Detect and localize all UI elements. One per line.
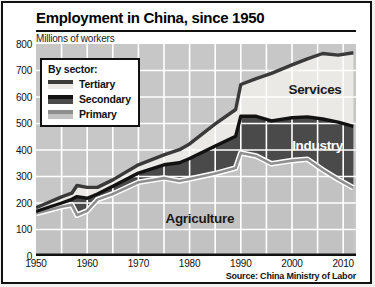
legend-box: By sector: TertiarySecondaryPrimary	[40, 58, 140, 127]
y-tick-label: 800	[3, 39, 32, 50]
x-tick-label: 1970	[122, 258, 154, 269]
legend-title: By sector:	[48, 63, 131, 75]
swatch-fill	[48, 99, 73, 104]
area-label-industry: Industry	[292, 138, 344, 153]
y-tick-label: 100	[3, 224, 32, 235]
area-label-services: Services	[288, 82, 341, 97]
legend-item-primary: Primary	[48, 108, 131, 120]
legend-swatch-icon	[48, 95, 73, 104]
x-tick-label: 1950	[20, 258, 52, 269]
y-tick-label: 300	[3, 171, 32, 182]
legend-swatch-icon	[48, 110, 73, 119]
y-tick-label: 700	[3, 65, 32, 76]
y-axis-units-label: Millions of workers	[36, 33, 114, 44]
y-tick-label: 600	[3, 92, 32, 103]
legend-item-tertiary: Tertiary	[48, 78, 131, 90]
y-tick-label: 500	[3, 118, 32, 129]
legend-label: Primary	[79, 108, 117, 120]
chart-card: Employment in China, since 1950 Millions…	[1, 1, 372, 284]
legend-rows: TertiarySecondaryPrimary	[48, 78, 131, 120]
page-title: Employment in China, since 1950	[36, 9, 366, 26]
swatch-fill	[48, 114, 73, 119]
swatch-fill	[48, 84, 73, 89]
legend-label: Tertiary	[79, 78, 115, 90]
source-credit: Source: China Ministry of Labor	[156, 271, 356, 281]
legend-swatch-icon	[48, 80, 73, 89]
x-tick-label: 1980	[174, 258, 206, 269]
x-tick-label: 1960	[71, 258, 103, 269]
legend-label: Secondary	[79, 93, 131, 105]
x-tick-label: 1990	[225, 258, 257, 269]
legend-item-secondary: Secondary	[48, 93, 131, 105]
area-label-agriculture: Agriculture	[165, 211, 235, 226]
y-tick-label: 200	[3, 198, 32, 209]
x-tick-label: 2010	[327, 258, 359, 269]
y-tick-label: 400	[3, 145, 32, 156]
title-divider	[36, 30, 356, 32]
x-tick-label: 2000	[276, 258, 308, 269]
